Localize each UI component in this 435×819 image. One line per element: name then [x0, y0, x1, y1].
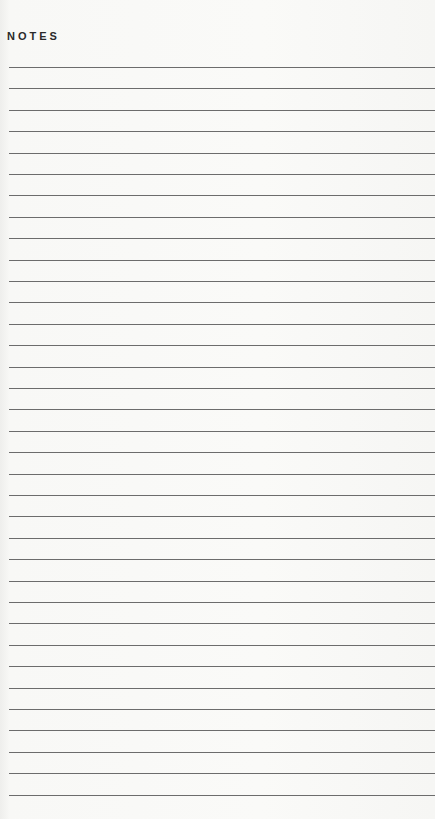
ruled-line	[9, 88, 435, 89]
ruled-line	[9, 388, 435, 389]
ruled-line	[9, 688, 435, 689]
ruled-line	[9, 474, 435, 475]
ruled-line	[9, 67, 435, 68]
ruled-line	[9, 324, 435, 325]
ruled-line	[9, 559, 435, 560]
ruled-line	[9, 645, 435, 646]
ruled-line	[9, 795, 435, 796]
ruled-line	[9, 538, 435, 539]
ruled-line	[9, 195, 435, 196]
ruled-line	[9, 730, 435, 731]
ruled-line	[9, 709, 435, 710]
ruled-line	[9, 302, 435, 303]
ruled-line	[9, 516, 435, 517]
ruled-line	[9, 773, 435, 774]
ruled-line	[9, 345, 435, 346]
ruled-line	[9, 367, 435, 368]
ruled-line	[9, 623, 435, 624]
ruled-line	[9, 281, 435, 282]
ruled-line	[9, 409, 435, 410]
ruled-line	[9, 495, 435, 496]
ruled-line	[9, 110, 435, 111]
ruled-line	[9, 174, 435, 175]
ruled-line	[9, 217, 435, 218]
ruled-line	[9, 602, 435, 603]
notes-heading: NOTES	[7, 30, 60, 42]
ruled-line	[9, 153, 435, 154]
ruled-line	[9, 452, 435, 453]
ruled-line	[9, 752, 435, 753]
ruled-line	[9, 131, 435, 132]
ruled-line	[9, 431, 435, 432]
ruled-line	[9, 581, 435, 582]
ruled-line	[9, 238, 435, 239]
ruled-line	[9, 666, 435, 667]
ruled-line	[9, 260, 435, 261]
